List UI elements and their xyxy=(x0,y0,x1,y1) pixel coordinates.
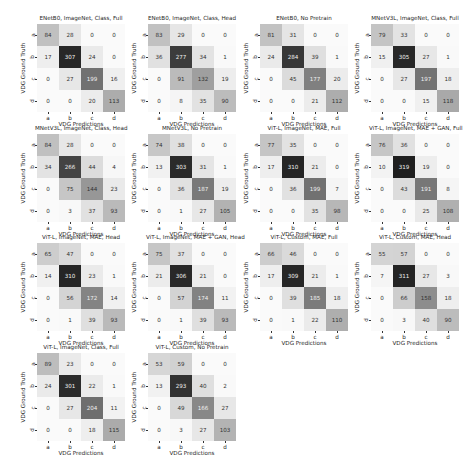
heatmap-cell: 0 xyxy=(326,156,348,178)
heatmap-cell: 21 xyxy=(148,265,170,287)
heatmap-cell: 28 xyxy=(59,134,81,156)
heatmap-cell: 0 xyxy=(260,200,282,222)
heatmap-cell: 3 xyxy=(437,265,459,287)
y-axis-label: VDG Ground Truth xyxy=(243,148,249,208)
heatmap-cell: 0 xyxy=(260,287,282,309)
heatmap-cell: 108 xyxy=(437,200,459,222)
y-tick-label: b xyxy=(140,165,146,169)
heatmap-cell: 1 xyxy=(170,309,192,331)
heatmap-cell: 18 xyxy=(326,287,348,309)
heatmap-grid: 84280017307240027199160020113 xyxy=(37,24,125,112)
heatmap-cell: 19 xyxy=(214,178,236,200)
y-axis-label: VDG Ground Truth xyxy=(20,367,26,427)
heatmap-cell: 307 xyxy=(59,46,81,68)
y-tick-label: d xyxy=(363,99,369,103)
y-axis-label: VDG Ground Truth xyxy=(20,148,26,208)
y-tick: c xyxy=(138,68,148,90)
heatmap-cell: 91 xyxy=(170,68,192,90)
heatmap-cell: 28 xyxy=(59,24,81,46)
heatmap-cell: 1 xyxy=(437,46,459,68)
y-tick: b xyxy=(138,156,148,178)
heatmap-cell: 293 xyxy=(170,375,192,397)
confusion-matrix-panel: ViT-L, ImageNet, MAE + GAN, HeadVDG Grou… xyxy=(128,234,238,346)
y-tick-label: a xyxy=(29,362,35,365)
heatmap-cell: 319 xyxy=(393,156,415,178)
panel-title: ViT-L, ImageNet, MAE + GAN, Full xyxy=(369,125,461,131)
y-tick-label: d xyxy=(252,318,258,322)
heatmap-grid: 89230024301221027204110018115 xyxy=(37,353,125,441)
heatmap-cell: 115 xyxy=(103,419,125,441)
heatmap-cell: 305 xyxy=(393,46,415,68)
y-axis-ticks: abcd xyxy=(138,353,148,441)
heatmap-cell: 53 xyxy=(148,353,170,375)
heatmap-grid: 555700731127306615818034090 xyxy=(371,243,459,331)
heatmap-cell: 0 xyxy=(437,243,459,265)
heatmap-grid: 74380013303311036187190127105 xyxy=(148,134,236,222)
heatmap-cell: 79 xyxy=(371,24,393,46)
y-tick-label: b xyxy=(140,384,146,388)
y-tick-label: d xyxy=(29,318,35,322)
y-axis-ticks: abcd xyxy=(138,134,148,222)
heatmap-cell: 35 xyxy=(192,90,214,112)
heatmap-cell: 0 xyxy=(371,178,393,200)
heatmap-cell: 310 xyxy=(59,265,81,287)
heatmap-cell: 39 xyxy=(282,287,304,309)
confusion-matrix-panel: ViT-L, Custom, MAE, FullVDG Ground Truth… xyxy=(240,234,350,346)
y-tick: c xyxy=(250,178,260,200)
heatmap-cell: 303 xyxy=(170,156,192,178)
heatmap-cell: 23 xyxy=(103,178,125,200)
heatmap-grid: 8329003627734109113219083590 xyxy=(148,24,236,112)
heatmap-cell: 0 xyxy=(37,309,59,331)
panel-title: ENetB0, ImageNet, Class, Full xyxy=(35,15,127,21)
heatmap-cell: 1 xyxy=(282,309,304,331)
y-tick-label: c xyxy=(140,187,146,190)
heatmap-cell: 10 xyxy=(371,156,393,178)
heatmap-cell: 0 xyxy=(192,24,214,46)
y-tick-label: b xyxy=(252,165,258,169)
heatmap-cell: 66 xyxy=(260,243,282,265)
heatmap-cell: 17 xyxy=(37,46,59,68)
heatmap-cell: 35 xyxy=(304,200,326,222)
heatmap-cell: 1 xyxy=(103,375,125,397)
heatmap-cell: 93 xyxy=(214,309,236,331)
y-tick-label: b xyxy=(29,274,35,278)
heatmap-cell: 0 xyxy=(214,265,236,287)
heatmap-cell: 27 xyxy=(192,419,214,441)
heatmap-cell: 0 xyxy=(148,419,170,441)
heatmap-cell: 84 xyxy=(37,134,59,156)
heatmap-cell: 21 xyxy=(304,265,326,287)
panel-title: MNetV3L, No Pretrain xyxy=(146,125,238,131)
y-tick-label: d xyxy=(29,209,35,213)
y-axis-label: VDG Ground Truth xyxy=(131,367,137,427)
y-tick-label: b xyxy=(252,55,258,59)
heatmap-cell: 24 xyxy=(81,46,103,68)
y-tick: d xyxy=(361,200,371,222)
heatmap-cell: 18 xyxy=(437,68,459,90)
heatmap-cell: 177 xyxy=(304,68,326,90)
heatmap-cell: 1 xyxy=(326,46,348,68)
y-tick-label: c xyxy=(252,77,258,80)
heatmap-cell: 66 xyxy=(393,287,415,309)
y-tick-label: d xyxy=(140,318,146,322)
y-tick-label: a xyxy=(363,252,369,255)
panel-title: ENetB0, No Pretrain xyxy=(258,15,350,21)
y-tick-label: a xyxy=(252,252,258,255)
y-tick: a xyxy=(250,134,260,156)
heatmap-cell: 90 xyxy=(437,309,459,331)
heatmap-cell: 277 xyxy=(170,46,192,68)
y-tick-label: d xyxy=(29,428,35,432)
heatmap-cell: 0 xyxy=(415,243,437,265)
heatmap-cell: 44 xyxy=(81,156,103,178)
heatmap-cell: 0 xyxy=(81,24,103,46)
heatmap-cell: 0 xyxy=(37,200,59,222)
heatmap-cell: 7 xyxy=(371,265,393,287)
heatmap-cell: 301 xyxy=(59,375,81,397)
heatmap-cell: 57 xyxy=(170,287,192,309)
heatmap-cell: 65 xyxy=(37,243,59,265)
heatmap-cell: 20 xyxy=(326,68,348,90)
panel-title: ViT-L, ImageNet, Class, Full xyxy=(35,344,127,350)
y-tick-label: b xyxy=(252,274,258,278)
heatmap-cell: 0 xyxy=(214,134,236,156)
heatmap-cell: 1 xyxy=(326,265,348,287)
heatmap-cell: 45 xyxy=(282,68,304,90)
